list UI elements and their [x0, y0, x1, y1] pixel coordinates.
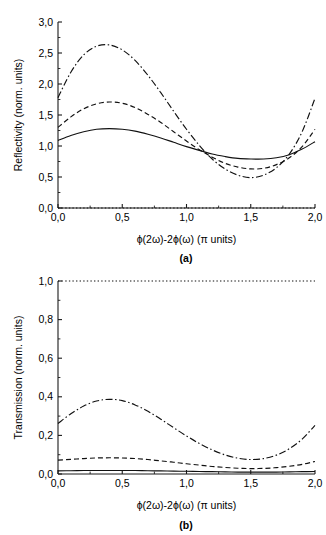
panel-b-y-axis-title: Transmission (norm. units) — [12, 316, 24, 440]
y-tick-label: 0,4 — [38, 390, 53, 402]
panel-b-x-axis-title: ϕ(2ω)-2ϕ(ω) (π units) — [137, 499, 237, 511]
x-tick-label: 1,0 — [179, 211, 194, 223]
panel-a-curves — [58, 45, 315, 208]
y-tick-label: 0,6 — [38, 352, 53, 364]
panel-b-label: (b) — [179, 519, 192, 531]
x-tick-label: 1,5 — [243, 211, 258, 223]
panel-a-x-axis-title: ϕ(2ω)-2ϕ(ω) (π units) — [137, 233, 237, 245]
x-tick-label: 2,0 — [308, 477, 323, 489]
figure-container: 0,00,51,01,52,02,53,00,00,51,01,52,0 Ref… — [0, 0, 326, 535]
panel-a-label: (a) — [180, 252, 193, 264]
y-tick-label: 2,5 — [38, 47, 53, 59]
series-dashed-curve — [58, 458, 315, 469]
series-dashed-curve — [58, 102, 315, 169]
x-tick-label: 0,0 — [51, 211, 66, 223]
x-tick-label: 1,5 — [243, 477, 258, 489]
panel-b-transmission: 0,00,20,40,60,81,00,00,51,01,52,0 Transm… — [0, 268, 326, 535]
y-tick-label: 0,5 — [38, 171, 53, 183]
y-tick-label: 3,0 — [38, 16, 53, 28]
panel-a-plot: 0,00,51,01,52,02,53,00,00,51,01,52,0 Ref… — [0, 0, 326, 267]
x-tick-label: 0,5 — [115, 477, 130, 489]
y-tick-label: 0,8 — [38, 313, 53, 325]
panel-b-plot: 0,00,20,40,60,81,00,00,51,01,52,0 Transm… — [0, 268, 326, 535]
panel-b-curves — [58, 281, 315, 472]
y-tick-label: 2,0 — [38, 78, 53, 90]
panel-a-axes: 0,00,51,01,52,02,53,00,00,51,01,52,0 — [38, 16, 322, 223]
panel-a-y-axis-title: Reflectivity (norm. units) — [12, 59, 24, 172]
y-tick-label: 1,0 — [38, 275, 53, 287]
x-tick-label: 0,5 — [115, 211, 130, 223]
x-tick-label: 0,0 — [51, 477, 66, 489]
series-solid-curve — [58, 471, 315, 473]
series-dash-dot-curve — [58, 399, 315, 459]
y-tick-label: 1,0 — [38, 140, 53, 152]
x-tick-label: 2,0 — [308, 211, 323, 223]
panel-b-axes: 0,00,20,40,60,81,00,00,51,01,52,0 — [38, 275, 322, 489]
y-tick-label: 1,5 — [38, 109, 53, 121]
y-tick-label: 0,2 — [38, 429, 53, 441]
panel-a-reflectivity: 0,00,51,01,52,02,53,00,00,51,01,52,0 Ref… — [0, 0, 326, 267]
x-tick-label: 1,0 — [179, 477, 194, 489]
series-solid-curve — [58, 129, 315, 159]
